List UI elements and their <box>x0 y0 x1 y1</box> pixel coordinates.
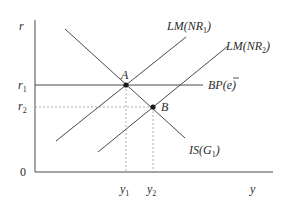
r2-label: r2 <box>18 99 27 115</box>
origin-label: 0 <box>20 165 26 179</box>
point-a-marker <box>123 82 128 87</box>
is-lm-bp-diagram: r y 0 r1 r2 y1 y2 A B LM(NR1) LM(NR2) BP… <box>0 0 289 207</box>
lm2-label: LM(NR2) <box>225 39 270 55</box>
x-axis-label: y <box>249 182 256 196</box>
point-b-label: B <box>161 100 169 114</box>
y1-label: y1 <box>119 182 129 198</box>
r1-label: r1 <box>18 78 27 94</box>
lm1-curve <box>56 37 186 141</box>
y-axis-label: r <box>19 19 24 33</box>
point-a-label: A <box>120 68 129 82</box>
is-label: IS(G1) <box>188 143 220 159</box>
lm1-label: LM(NR1) <box>166 19 211 35</box>
y2-label: y2 <box>146 182 156 198</box>
bp-label: BP(e) <box>208 78 236 92</box>
lm2-curve <box>98 46 228 152</box>
point-b-marker <box>150 104 155 109</box>
